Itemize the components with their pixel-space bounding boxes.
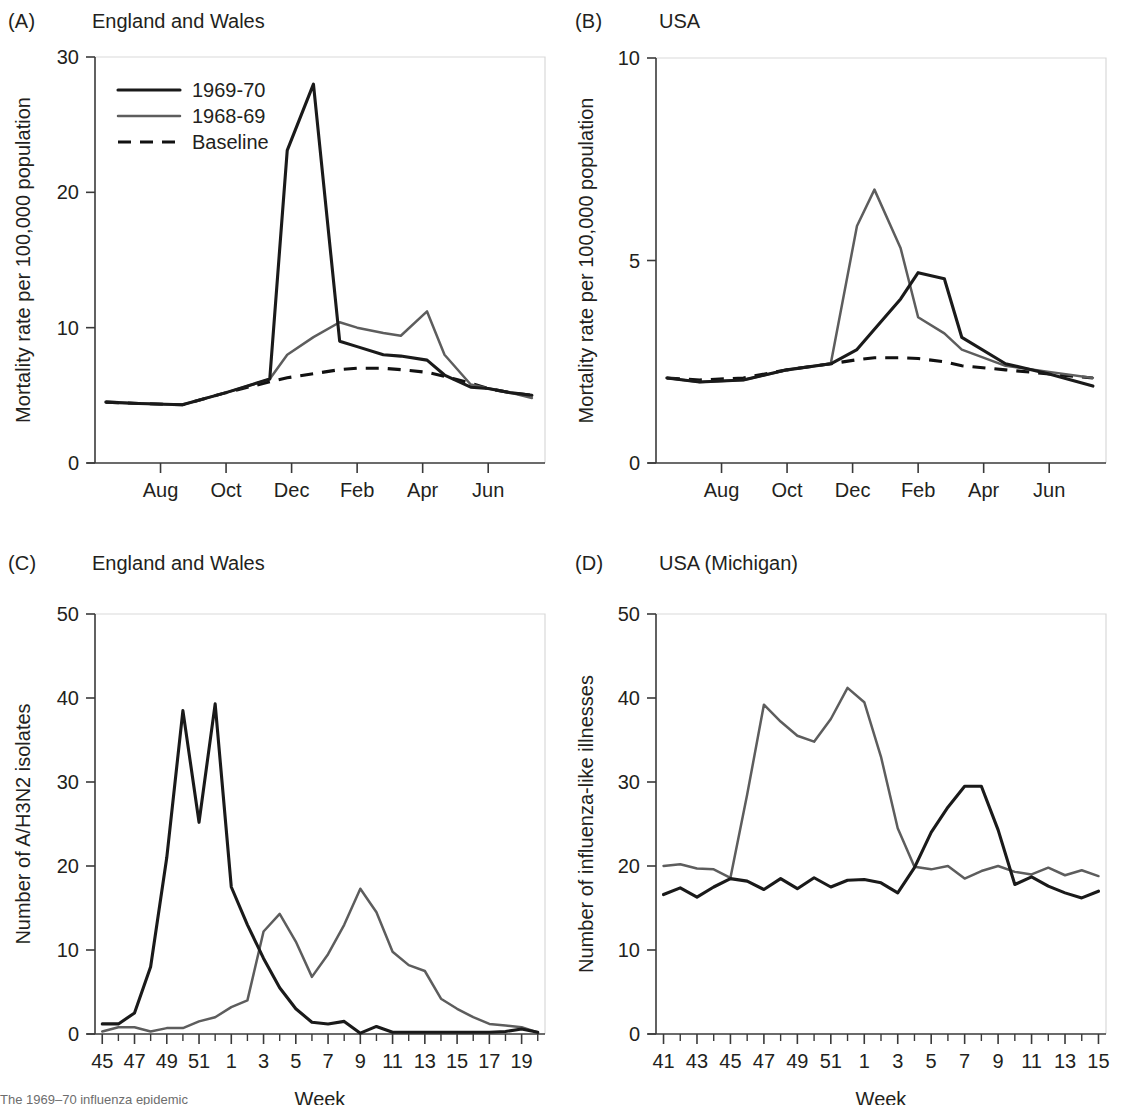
x-tick-label: Apr (407, 479, 438, 501)
x-tick-label: 3 (258, 1050, 269, 1072)
y-tick-label: 20 (618, 855, 640, 877)
panel-c-plot: 01020304050Number of A/H3N2 isolates4547… (0, 560, 567, 1105)
y-tick-label: 20 (57, 181, 79, 203)
x-tick-label: 3 (892, 1050, 903, 1072)
series-line-1968-69 (667, 190, 1093, 382)
x-tick-label: 49 (156, 1050, 178, 1072)
series-line-1969-70 (664, 786, 1099, 898)
y-tick-label: 30 (618, 771, 640, 793)
y-tick-label: 30 (57, 771, 79, 793)
panel-a-plot: 0102030Mortality rate per 100,000 popula… (0, 20, 567, 520)
y-tick-label: 10 (618, 939, 640, 961)
x-tick-label: 11 (382, 1050, 403, 1072)
series-line-1968-69 (102, 889, 537, 1033)
y-tick-label: 10 (618, 47, 640, 69)
series-line-1969-70 (667, 273, 1093, 386)
y-axis-title: Mortality rate per 100,000 population (12, 97, 34, 423)
series-line-1969-70 (106, 84, 532, 405)
x-tick-label: 49 (786, 1050, 808, 1072)
x-tick-label: 17 (478, 1050, 500, 1072)
panel-b-plot: 0510Mortality rate per 100,000 populatio… (567, 20, 1134, 520)
y-tick-label: 0 (68, 452, 79, 474)
y-tick-label: 10 (57, 939, 79, 961)
x-tick-label: 1 (226, 1050, 237, 1072)
figure-container: (A) England and Wales 0102030Mortality r… (0, 0, 1134, 1105)
y-tick-label: 40 (618, 687, 640, 709)
x-tick-label: Feb (901, 479, 935, 501)
x-tick-label: Apr (968, 479, 999, 501)
panel-c: (C) England and Wales 01020304050Number … (0, 540, 567, 1105)
legend-label-2: Baseline (192, 131, 269, 153)
x-tick-label: 45 (91, 1050, 113, 1072)
x-tick-label: 9 (355, 1050, 366, 1072)
x-tick-label: 13 (414, 1050, 436, 1072)
series-line-1968-69 (106, 311, 532, 404)
y-tick-label: 30 (57, 46, 79, 68)
x-tick-label: 47 (123, 1050, 145, 1072)
y-tick-label: 0 (629, 1023, 640, 1045)
x-tick-label: 1 (859, 1050, 870, 1072)
x-tick-label: 15 (446, 1050, 468, 1072)
x-tick-label: Oct (772, 479, 804, 501)
panel-b: (B) USA 0510Mortality rate per 100,000 p… (567, 0, 1134, 520)
x-tick-label: 9 (993, 1050, 1004, 1072)
x-tick-label: Dec (274, 479, 310, 501)
panel-a: (A) England and Wales 0102030Mortality r… (0, 0, 567, 520)
x-tick-label: Jun (472, 479, 504, 501)
x-tick-label: 45 (719, 1050, 741, 1072)
series-line-1968-69 (664, 688, 1099, 879)
panel-d: (D) USA (Michigan) 01020304050Number of … (567, 540, 1134, 1105)
x-tick-label: 41 (652, 1050, 674, 1072)
x-tick-label: Jun (1033, 479, 1065, 501)
panel-d-plot: 01020304050Number of influenza-like illn… (567, 560, 1134, 1105)
y-tick-label: 50 (618, 603, 640, 625)
x-tick-label: Dec (835, 479, 871, 501)
y-tick-label: 20 (57, 855, 79, 877)
x-tick-label: 15 (1087, 1050, 1109, 1072)
x-tick-label: 47 (753, 1050, 775, 1072)
y-axis-title: Number of A/H3N2 isolates (12, 703, 34, 944)
x-tick-label: Aug (143, 479, 179, 501)
x-tick-label: 7 (959, 1050, 970, 1072)
y-axis-title: Mortality rate per 100,000 population (575, 98, 597, 424)
x-tick-label: 5 (926, 1050, 937, 1072)
legend-label-1: 1968-69 (192, 105, 265, 127)
x-tick-label: 51 (820, 1050, 842, 1072)
figure-caption: The 1969–70 influenza epidemic (0, 1092, 1134, 1105)
x-tick-label: 43 (686, 1050, 708, 1072)
x-tick-label: 13 (1054, 1050, 1076, 1072)
y-tick-label: 0 (629, 452, 640, 474)
y-tick-label: 50 (57, 603, 79, 625)
x-tick-label: 51 (188, 1050, 210, 1072)
y-axis-title: Number of influenza-like illnesses (575, 675, 597, 973)
x-tick-label: 7 (323, 1050, 334, 1072)
y-tick-label: 40 (57, 687, 79, 709)
series-line-1969-70 (102, 704, 537, 1033)
x-tick-label: Aug (704, 479, 740, 501)
y-tick-label: 0 (68, 1023, 79, 1045)
y-tick-label: 10 (57, 317, 79, 339)
legend-label-0: 1969-70 (192, 79, 265, 101)
x-tick-label: 19 (510, 1050, 532, 1072)
x-tick-label: 5 (290, 1050, 301, 1072)
x-tick-label: Feb (340, 479, 374, 501)
x-tick-label: Oct (211, 479, 243, 501)
x-tick-label: 11 (1021, 1050, 1042, 1072)
y-tick-label: 5 (629, 250, 640, 272)
